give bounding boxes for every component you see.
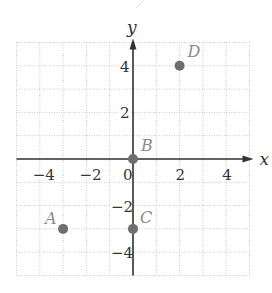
point-label-c: C — [140, 208, 152, 227]
x-tick-label: 4 — [222, 166, 232, 184]
x-tick-label: −4 — [33, 166, 55, 184]
coordinate-plane: xy −4−2024−4−224 ABCD — [0, 0, 272, 293]
y-axis-label: y — [126, 17, 137, 37]
point-b — [128, 154, 138, 164]
x-tick-label: 2 — [176, 166, 186, 184]
y-tick-label: 4 — [120, 58, 130, 76]
point-c — [128, 224, 138, 234]
x-tick-label: 0 — [123, 166, 133, 184]
stray-mark — [136, 1, 143, 8]
y-tick-label: −4 — [111, 244, 133, 262]
point-label-b: B — [140, 136, 153, 155]
y-axis-arrow-icon — [130, 39, 137, 50]
point-label-a: A — [43, 209, 57, 228]
y-tick-label: 2 — [120, 104, 130, 122]
point-label-d: D — [187, 42, 201, 61]
point-a — [58, 224, 68, 234]
x-axis-label: x — [260, 149, 270, 169]
y-tick-label: −2 — [111, 198, 133, 216]
x-tick-label: −2 — [79, 166, 101, 184]
x-axis-arrow-icon — [243, 156, 254, 163]
point-d — [175, 61, 185, 71]
